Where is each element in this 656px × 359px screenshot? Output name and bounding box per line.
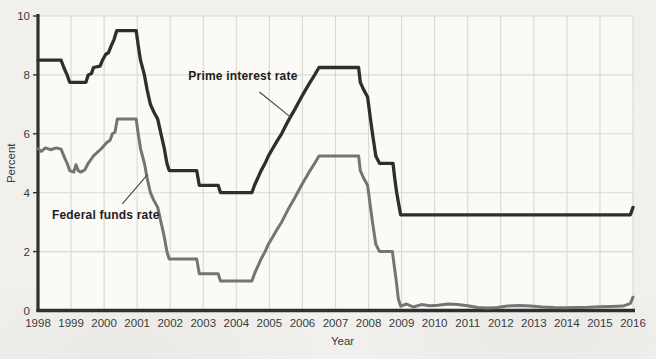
x-tick-label: 1999: [58, 317, 84, 329]
x-tick-label: 2006: [290, 317, 316, 329]
y-tick-label: 0: [24, 305, 30, 317]
x-tick-label: 2008: [356, 317, 382, 329]
x-tick-label: 2013: [521, 317, 547, 329]
series-annotation-label: Federal funds rate: [52, 208, 160, 222]
figure-interest-rates-chart: 0246810199819992000200120022003200420052…: [0, 0, 656, 359]
x-tick-label: 2010: [422, 317, 448, 329]
x-tick-label: 2011: [455, 317, 480, 329]
x-tick-label: 2015: [587, 317, 613, 329]
x-tick-label: 2005: [257, 317, 283, 329]
x-tick-label: 2012: [488, 317, 514, 329]
x-tick-label: 2007: [323, 317, 349, 329]
x-tick-label: 2000: [91, 317, 117, 329]
chart-svg: 0246810199819992000200120022003200420052…: [0, 0, 656, 359]
x-tick-label: 2016: [620, 317, 646, 329]
x-tick-label: 2001: [124, 317, 150, 329]
x-tick-label: 1998: [25, 317, 51, 329]
y-tick-label: 8: [24, 69, 30, 81]
y-tick-label: 4: [24, 187, 31, 199]
y-axis-title: Percent: [5, 143, 17, 183]
y-tick-label: 10: [17, 10, 30, 22]
y-tick-label: 6: [24, 128, 30, 140]
x-axis-title: Year: [331, 335, 354, 347]
x-tick-label: 2003: [190, 317, 216, 329]
x-tick-label: 2004: [224, 317, 250, 329]
series-annotation-label: Prime interest rate: [188, 69, 297, 83]
x-tick-label: 2014: [554, 317, 580, 329]
x-tick-label: 2002: [157, 317, 183, 329]
y-tick-label: 2: [24, 246, 30, 258]
x-tick-label: 2009: [389, 317, 415, 329]
